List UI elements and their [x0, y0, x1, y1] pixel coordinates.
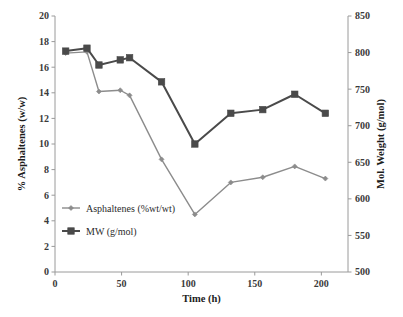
- data-point-marker-square: [228, 110, 235, 117]
- y-axis-right-tick-label: 500: [355, 266, 370, 277]
- chart-canvas: 0246810121416182050055060065070075080085…: [0, 0, 403, 317]
- y-axis-right-tick-label: 700: [355, 120, 370, 131]
- y-axis-left-tick-label: 16: [39, 62, 49, 73]
- x-axis-tick-label: 100: [181, 278, 196, 289]
- plot-background: [0, 0, 403, 317]
- y-axis-right-tick-label: 650: [355, 157, 370, 168]
- y-axis-right-tick-label: 850: [355, 10, 370, 21]
- y-axis-left-tick-label: 12: [39, 113, 49, 124]
- y-axis-left-tick-label: 4: [44, 215, 49, 226]
- y-axis-left-tick-label: 20: [39, 10, 49, 21]
- data-point-marker-square: [62, 48, 68, 55]
- data-point-marker-square: [117, 57, 124, 64]
- x-axis-tick-label: 200: [314, 278, 329, 289]
- x-axis-tick-label: 150: [247, 278, 262, 289]
- data-point-marker-square: [291, 91, 298, 98]
- data-point-marker-square: [260, 106, 267, 113]
- y-axis-right-tick-label: 550: [355, 230, 370, 241]
- data-point-marker-square: [192, 141, 199, 148]
- y-axis-left-tick-label: 10: [39, 138, 49, 149]
- legend-label: MW (g/mol): [86, 226, 137, 238]
- data-point-marker-square: [68, 228, 75, 235]
- x-axis-tick-label: 0: [53, 278, 58, 289]
- chart-figure: 0246810121416182050055060065070075080085…: [0, 0, 403, 317]
- y-axis-right-tick-label: 600: [355, 193, 370, 204]
- y-axis-left-tick-label: 6: [44, 190, 49, 201]
- y-axis-left-tick-label: 0: [44, 266, 49, 277]
- y-axis-left-tick-label: 2: [44, 241, 49, 252]
- data-point-marker-square: [126, 54, 133, 61]
- x-axis-tick-label: 50: [117, 278, 127, 289]
- x-axis-title: Time (h): [182, 293, 221, 305]
- data-point-marker-square: [84, 45, 91, 52]
- y-axis-right-tick-label: 800: [355, 47, 370, 58]
- data-point-marker-square: [158, 79, 165, 86]
- data-point-marker-square: [322, 110, 329, 117]
- y-axis-right-title: Mol. Weight (g/mol): [375, 99, 387, 189]
- y-axis-left-tick-label: 8: [44, 164, 49, 175]
- y-axis-left-title: % Asphaltenes (w/w): [16, 96, 28, 191]
- y-axis-left-tick-label: 14: [39, 87, 49, 98]
- data-point-marker-square: [96, 62, 103, 69]
- legend-label: Asphaltenes (%wt/wt): [86, 203, 175, 215]
- y-axis-right-tick-label: 750: [355, 84, 370, 95]
- y-axis-left-tick-label: 18: [39, 36, 49, 47]
